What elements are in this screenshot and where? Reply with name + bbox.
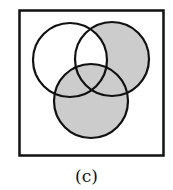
venn-diagram: [0, 0, 173, 190]
figure-label: (c): [0, 166, 173, 186]
